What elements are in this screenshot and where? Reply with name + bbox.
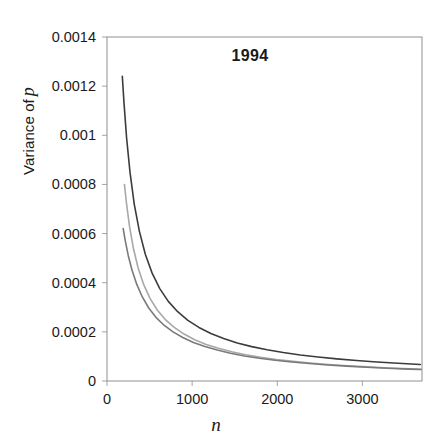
x-axis-label: n	[0, 414, 432, 436]
x-tick-label: 0	[103, 391, 111, 407]
x-tick-label: 1000	[176, 391, 208, 407]
y-tick-label: 0.0002	[52, 324, 96, 340]
chart-figure: 00.00020.00040.00060.00080.0010.00120.00…	[0, 0, 432, 447]
x-tick-label: 2000	[261, 391, 293, 407]
chart-title: 1994	[190, 47, 310, 65]
series-layer	[122, 76, 421, 369]
y-axis-tick-labels: 00.00020.00040.00060.00080.0010.00120.00…	[52, 29, 96, 389]
x-tick-label: 3000	[346, 391, 378, 407]
x-axis-tick-labels: 0100020003000	[103, 391, 379, 407]
y-tick-label: 0.0004	[52, 275, 96, 291]
y-tick-label: 0.001	[60, 127, 96, 143]
series-line-middle-curve	[124, 184, 421, 369]
plot-frame	[107, 37, 422, 381]
y-tick-label: 0.0014	[52, 29, 96, 45]
axis-tick-marks	[102, 37, 362, 386]
y-tick-label: 0.0012	[52, 78, 96, 94]
y-tick-label: 0	[88, 373, 96, 389]
y-tick-label: 0.0008	[52, 176, 96, 192]
y-tick-label: 0.0006	[52, 226, 96, 242]
chart-canvas: 00.00020.00040.00060.00080.0010.00120.00…	[0, 0, 432, 447]
series-line-lower-curve	[123, 229, 421, 370]
y-axis-label-text: Variance of	[20, 99, 37, 175]
y-axis-label: Variance of p	[15, 51, 41, 211]
y-axis-label-variable: p	[18, 87, 39, 99]
